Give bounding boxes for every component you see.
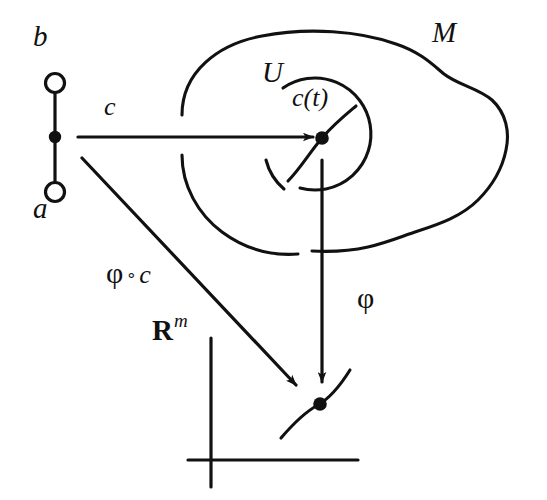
point-ct (315, 131, 329, 145)
domain-interval (46, 74, 65, 202)
label-euclidean-space: Rm (152, 313, 187, 345)
interval-marked-point-t (49, 131, 61, 143)
circle-U-lower-left-arc (266, 160, 284, 189)
composition-curve-glyph: c (139, 260, 151, 289)
interval-open-endpoint-a (46, 183, 65, 202)
composition-operator-glyph: ∘ (126, 265, 137, 284)
composition-phi-glyph: φ (106, 256, 123, 289)
label-manifold-m: M (432, 18, 456, 47)
point-phi-of-ct (313, 397, 327, 411)
label-point-ct: c(t) (292, 85, 328, 111)
interval-open-endpoint-b (46, 74, 65, 93)
manifold-outline-lower-left (182, 155, 298, 254)
euclidean-dimension-exponent: m (174, 310, 188, 331)
label-composition-phi-c: φ∘c (106, 258, 151, 288)
label-curve-map-c: c (104, 94, 116, 120)
label-interval-top-b: b (33, 22, 48, 51)
manifold-M-outline (182, 31, 507, 254)
euclidean-space-letter: R (152, 314, 173, 346)
label-neighborhood-u: U (262, 58, 283, 87)
label-chart-map-phi: φ (357, 283, 374, 313)
manifold-outline-upper (182, 31, 507, 251)
label-interval-bottom-a: a (33, 194, 48, 223)
diagram-canvas: b a c M U c(t) φ φ∘c Rm (0, 0, 547, 500)
